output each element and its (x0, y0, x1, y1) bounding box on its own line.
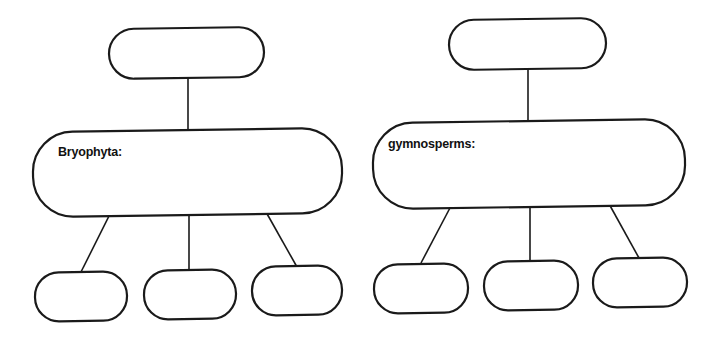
top-box[interactable] (449, 18, 607, 70)
child-box-2[interactable] (144, 269, 237, 319)
bryophyta-middle-box[interactable] (32, 128, 342, 217)
child-box-2[interactable] (484, 260, 579, 310)
child-box-1[interactable] (374, 263, 469, 313)
connector-middle-to-child-3 (266, 212, 297, 267)
gymnosperms-label: gymnosperms: (388, 137, 475, 151)
bryophyta-label: Bryophyta: (58, 145, 122, 159)
concept-map-canvas (0, 0, 719, 339)
gymnosperms-middle-box[interactable] (372, 119, 685, 209)
connector-middle-to-child-1 (81, 214, 110, 272)
connector-middle-to-child-3 (608, 202, 639, 258)
connector-middle-to-child-1 (421, 206, 451, 263)
gymnosperms-concept-map (372, 18, 687, 314)
child-box-1[interactable] (35, 271, 128, 321)
top-box[interactable] (109, 27, 265, 79)
bryophyta-concept-map (32, 27, 342, 322)
child-box-3[interactable] (252, 265, 343, 315)
child-box-3[interactable] (593, 257, 688, 307)
